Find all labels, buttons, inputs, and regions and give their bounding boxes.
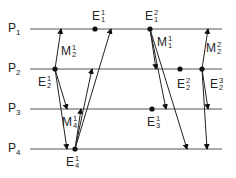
event-dot-e4-1 [72,146,77,151]
process-label-p1: P1 [8,22,20,37]
event-dot-e2-3 [199,66,204,71]
event-label-e3-1-base: E [147,116,155,128]
event-label-e4-1-base: E [66,156,74,168]
message-label-m2-2-base: M [206,42,216,54]
message-label-m2-2-sub: 2 [217,48,221,55]
event-label-e2-1-sub: 2 [47,82,51,89]
event-label-e1-1: E11 [92,10,105,23]
event-dot-e1-2 [147,26,152,31]
message-label-m2-1: M12 [61,45,76,58]
process-diagram: P1P2P3P4E11E21E12E22E32E13E14M12M14M11M2… [0,0,236,178]
event-dot-e2-2 [177,66,182,71]
event-label-e4-1-sub: 4 [75,162,79,169]
event-dot-e2-1 [52,66,57,71]
message-label-m1-1-sub: 1 [168,42,172,49]
event-label-e2-2-sub: 2 [186,84,190,91]
message-label-m2-1-base: M [61,45,71,57]
event-dot-e1-1 [92,26,97,31]
event-label-e2-3-base: E [210,78,218,90]
message-label-m1-1: M11 [157,36,172,49]
event-label-e2-3: E32 [210,78,223,91]
message-label-m2-2: M22 [206,42,221,55]
event-label-e3-1: E13 [147,116,160,129]
event-label-e1-1-sub: 1 [101,16,105,23]
diagram-canvas [0,0,236,178]
message-label-m4-1-base: M [62,116,72,128]
event-label-e1-1-base: E [92,10,100,22]
event-label-e2-1: E12 [38,76,51,89]
event-label-e1-2: E21 [145,10,158,23]
message-label-m4-1-sub: 4 [73,122,77,129]
message-arrow [75,29,111,149]
event-label-e2-3-sub: 2 [219,84,223,91]
event-label-e3-1-sub: 3 [156,122,160,129]
event-label-e2-2: E22 [177,78,190,91]
message-label-m4-1: M14 [62,116,77,129]
event-label-e2-1-base: E [38,76,46,88]
process-label-p4: P4 [8,142,20,157]
event-label-e4-1: E14 [66,156,79,169]
event-dot-e3-1 [149,106,154,111]
event-label-e1-2-base: E [145,10,153,22]
event-label-e2-2-base: E [177,78,185,90]
message-label-m2-1-sub: 2 [72,51,76,58]
process-label-p3: P3 [8,102,20,117]
message-label-m1-1-base: M [157,36,167,48]
message-arrow [55,69,67,109]
event-label-e1-2-sub: 1 [154,16,158,23]
process-label-p2: P2 [8,62,20,77]
